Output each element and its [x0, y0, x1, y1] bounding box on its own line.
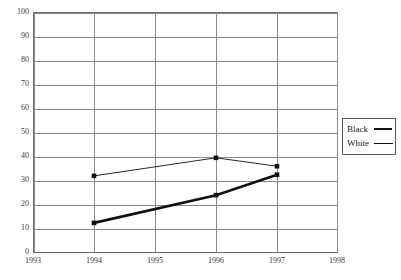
- y-axis-labels: 100 90 80 70 60 50 40 30 20 10 0: [0, 12, 29, 253]
- y-tick-label: 10: [3, 224, 29, 232]
- series-line-white: [94, 158, 277, 176]
- series-layer: [33, 12, 338, 253]
- x-tick-label: 1993: [13, 256, 53, 266]
- thin-line-swatch-icon: [374, 143, 393, 144]
- y-tick-label: 60: [3, 104, 29, 112]
- series-line-black: [94, 175, 277, 223]
- x-tick-label: 1994: [74, 256, 114, 266]
- series-white: [92, 156, 280, 179]
- y-tick-label: 90: [3, 32, 29, 40]
- y-tick-label: 30: [3, 176, 29, 184]
- legend-label-white: White: [347, 138, 374, 148]
- legend-label-black: Black: [347, 124, 374, 134]
- y-tick-label: 70: [3, 80, 29, 88]
- y-tick-label: 50: [3, 128, 29, 136]
- line-chart: 100 90 80 70 60 50 40 30 20 10 0 1993 19…: [0, 0, 401, 280]
- y-tick-label: 80: [3, 56, 29, 64]
- legend-item-black[interactable]: Black: [347, 122, 391, 136]
- y-tick-label: 100: [3, 8, 29, 16]
- data-point-marker: [275, 164, 280, 169]
- y-tick-label: 40: [3, 152, 29, 160]
- x-tick-label: 1997: [257, 256, 297, 266]
- x-tick-label: 1996: [196, 256, 236, 266]
- data-point-marker: [214, 156, 219, 161]
- x-tick-label: 1998: [317, 256, 357, 266]
- data-point-marker: [275, 172, 280, 177]
- y-tick-label: 0: [3, 248, 29, 256]
- chart-title: [0, 0, 401, 2]
- series-black: [92, 172, 280, 225]
- data-point-marker: [92, 221, 97, 226]
- legend-item-white[interactable]: White: [347, 136, 391, 150]
- x-axis-labels: 1993 1994 1995 1996 1997 1998: [0, 256, 401, 272]
- y-tick-label: 20: [3, 200, 29, 208]
- chart-legend: Black White: [342, 118, 396, 155]
- x-tick-label: 1995: [135, 256, 175, 266]
- thick-line-swatch-icon: [374, 128, 392, 131]
- data-point-marker: [92, 174, 97, 179]
- data-point-marker: [214, 193, 219, 198]
